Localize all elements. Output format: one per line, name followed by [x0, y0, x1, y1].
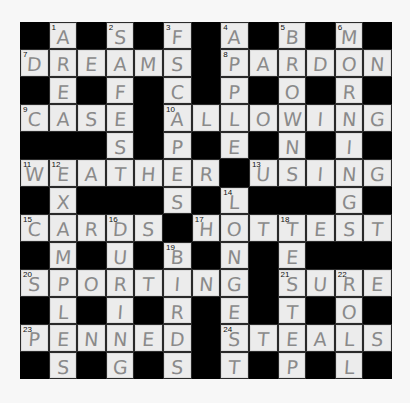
- crossword-cell[interactable]: G: [363, 104, 392, 131]
- crossword-cell[interactable]: P: [49, 269, 78, 296]
- crossword-cell[interactable]: S: [163, 352, 192, 379]
- crossword-cell[interactable]: N: [363, 49, 392, 76]
- crossword-cell[interactable]: O: [249, 104, 278, 131]
- crossword-cell[interactable]: X: [49, 187, 78, 214]
- crossword-cell[interactable]: R: [49, 49, 78, 76]
- crossword-cell[interactable]: S: [134, 214, 163, 241]
- crossword-cell[interactable]: T: [249, 214, 278, 241]
- crossword-cell[interactable]: I: [335, 132, 364, 159]
- crossword-cell[interactable]: S: [335, 214, 364, 241]
- crossword-cell[interactable]: 23P: [20, 324, 49, 351]
- crossword-cell[interactable]: T: [220, 352, 249, 379]
- crossword-cell[interactable]: 10A: [163, 104, 192, 131]
- crossword-cell[interactable]: O: [335, 49, 364, 76]
- crossword-cell[interactable]: N: [278, 132, 307, 159]
- crossword-cell[interactable]: L: [335, 324, 364, 351]
- crossword-cell[interactable]: I: [106, 297, 135, 324]
- crossword-cell[interactable]: 2S: [106, 22, 135, 49]
- crossword-cell[interactable]: N: [192, 269, 221, 296]
- crossword-cell[interactable]: M: [49, 242, 78, 269]
- crossword-cell[interactable]: S: [278, 159, 307, 186]
- crossword-cell[interactable]: L: [335, 352, 364, 379]
- crossword-cell[interactable]: L: [192, 104, 221, 131]
- crossword-cell[interactable]: E: [77, 49, 106, 76]
- crossword-cell[interactable]: E: [163, 159, 192, 186]
- crossword-cell[interactable]: A: [77, 159, 106, 186]
- crossword-cell[interactable]: 20S: [20, 269, 49, 296]
- crossword-cell[interactable]: R: [163, 297, 192, 324]
- crossword-cell[interactable]: R: [335, 77, 364, 104]
- crossword-cell[interactable]: E: [220, 132, 249, 159]
- crossword-cell[interactable]: P: [278, 352, 307, 379]
- crossword-cell[interactable]: S: [77, 104, 106, 131]
- crossword-cell[interactable]: S: [106, 132, 135, 159]
- crossword-cell[interactable]: 1A: [49, 22, 78, 49]
- crossword-cell[interactable]: L: [220, 104, 249, 131]
- crossword-cell[interactable]: E: [49, 77, 78, 104]
- crossword-cell[interactable]: A: [249, 49, 278, 76]
- crossword-cell[interactable]: 11W: [20, 159, 49, 186]
- crossword-cell[interactable]: 9C: [20, 104, 49, 131]
- crossword-cell[interactable]: R: [77, 214, 106, 241]
- crossword-cell[interactable]: U: [106, 242, 135, 269]
- crossword-cell[interactable]: E: [278, 242, 307, 269]
- crossword-cell[interactable]: A: [49, 104, 78, 131]
- crossword-cell[interactable]: 19B: [163, 242, 192, 269]
- crossword-cell[interactable]: T: [134, 269, 163, 296]
- crossword-cell[interactable]: 18T: [278, 214, 307, 241]
- crossword-cell[interactable]: A: [106, 49, 135, 76]
- crossword-cell[interactable]: T: [106, 159, 135, 186]
- crossword-cell[interactable]: O: [77, 269, 106, 296]
- crossword-cell[interactable]: 14L: [220, 187, 249, 214]
- crossword-cell[interactable]: S: [163, 49, 192, 76]
- crossword-cell[interactable]: G: [106, 352, 135, 379]
- crossword-cell[interactable]: I: [306, 104, 335, 131]
- crossword-cell[interactable]: S: [363, 324, 392, 351]
- crossword-cell[interactable]: D: [306, 49, 335, 76]
- crossword-cell[interactable]: 3F: [163, 22, 192, 49]
- crossword-cell[interactable]: E: [363, 269, 392, 296]
- crossword-cell[interactable]: 7D: [20, 49, 49, 76]
- crossword-cell[interactable]: R: [106, 269, 135, 296]
- crossword-cell[interactable]: E: [306, 214, 335, 241]
- crossword-cell[interactable]: 4A: [220, 22, 249, 49]
- crossword-cell[interactable]: 12E: [49, 159, 78, 186]
- crossword-cell[interactable]: 13U: [249, 159, 278, 186]
- crossword-cell[interactable]: N: [220, 242, 249, 269]
- crossword-cell[interactable]: E: [220, 297, 249, 324]
- crossword-cell[interactable]: N: [77, 324, 106, 351]
- crossword-cell[interactable]: N: [335, 159, 364, 186]
- crossword-cell[interactable]: 22R: [335, 269, 364, 296]
- crossword-cell[interactable]: I: [163, 269, 192, 296]
- crossword-cell[interactable]: P: [220, 77, 249, 104]
- crossword-cell[interactable]: 6M: [335, 22, 364, 49]
- crossword-cell[interactable]: U: [306, 269, 335, 296]
- crossword-cell[interactable]: 8P: [220, 49, 249, 76]
- crossword-cell[interactable]: O: [335, 297, 364, 324]
- crossword-cell[interactable]: E: [49, 324, 78, 351]
- crossword-cell[interactable]: 15C: [20, 214, 49, 241]
- crossword-cell[interactable]: C: [163, 77, 192, 104]
- crossword-cell[interactable]: O: [220, 214, 249, 241]
- crossword-cell[interactable]: E: [278, 324, 307, 351]
- crossword-cell[interactable]: N: [106, 324, 135, 351]
- crossword-cell[interactable]: O: [278, 77, 307, 104]
- crossword-cell[interactable]: 17H: [192, 214, 221, 241]
- crossword-cell[interactable]: E: [134, 324, 163, 351]
- crossword-cell[interactable]: L: [49, 297, 78, 324]
- crossword-cell[interactable]: F: [106, 77, 135, 104]
- crossword-cell[interactable]: A: [49, 214, 78, 241]
- crossword-cell[interactable]: M: [134, 49, 163, 76]
- crossword-cell[interactable]: R: [278, 49, 307, 76]
- crossword-cell[interactable]: A: [306, 324, 335, 351]
- crossword-cell[interactable]: 21S: [278, 269, 307, 296]
- crossword-cell[interactable]: P: [163, 132, 192, 159]
- crossword-cell[interactable]: 5B: [278, 22, 307, 49]
- crossword-cell[interactable]: 24S: [220, 324, 249, 351]
- crossword-cell[interactable]: S: [163, 187, 192, 214]
- crossword-cell[interactable]: T: [278, 297, 307, 324]
- crossword-cell[interactable]: E: [106, 104, 135, 131]
- crossword-cell[interactable]: S: [49, 352, 78, 379]
- crossword-cell[interactable]: G: [363, 159, 392, 186]
- crossword-cell[interactable]: H: [134, 159, 163, 186]
